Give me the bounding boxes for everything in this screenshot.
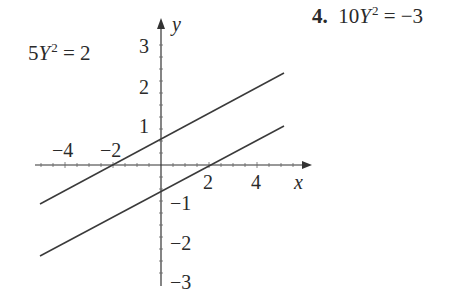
problem-rhs: = −3 (378, 4, 423, 28)
x-tick-label: 4 (251, 172, 261, 192)
x-axis-label: x (294, 172, 303, 192)
problem-coef: 10 (338, 4, 359, 28)
y-tick-label: 1 (139, 116, 149, 136)
annotation-coef: 5 (28, 41, 39, 65)
annotation-equation: 5Y2 = 2 (28, 43, 91, 64)
x-tick-label: −2 (100, 140, 121, 160)
y-tick-label: 3 (139, 36, 149, 56)
lower-line (40, 126, 284, 256)
y-axis-label: y (172, 14, 181, 34)
y-tick-label: −1 (170, 193, 191, 213)
annotation-var: Y (39, 41, 51, 65)
y-tick-label: 2 (139, 77, 149, 97)
annotation-exp: 2 (51, 40, 58, 55)
problem-equation: 4. 10Y2 = −3 (312, 6, 423, 27)
y-axis-arrow-icon (157, 18, 165, 29)
problem-exp: 2 (372, 3, 379, 18)
x-tick-label: −4 (52, 140, 73, 160)
y-tick-label: −3 (170, 272, 191, 292)
annotation-rhs: = 2 (58, 41, 91, 65)
y-tick-label: −2 (170, 233, 191, 253)
x-axis-arrow-icon (302, 161, 312, 169)
problem-var: Y (359, 4, 371, 28)
x-tick-label: 2 (203, 172, 213, 192)
problem-number: 4. (312, 4, 328, 28)
